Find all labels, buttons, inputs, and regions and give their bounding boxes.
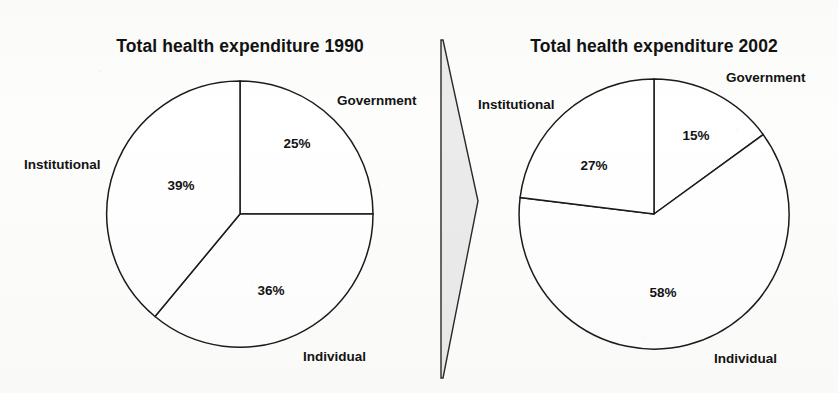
chart-title-1990: Total health expenditure 1990 — [116, 36, 364, 56]
pie-value-institutional-1990: 39% — [167, 178, 194, 193]
figure-page: Total health expenditure 1990 25% 36% 39… — [0, 0, 838, 393]
pie-value-institutional-2002: 27% — [580, 158, 607, 173]
transition-arrow-icon — [441, 40, 478, 378]
chart-title-2002: Total health expenditure 2002 — [530, 36, 778, 56]
pie-value-government-1990: 25% — [283, 136, 310, 151]
pie-value-individual-2002: 58% — [649, 285, 676, 300]
pie-label-institutional-2002: Institutional — [478, 97, 555, 112]
pie-label-institutional-1990: Institutional — [24, 157, 101, 172]
pie-label-individual-2002: Individual — [714, 351, 777, 366]
pie-chart-2002: Total health expenditure 2002 15% 58% 27… — [478, 36, 806, 366]
two-pie-chart-figure: Total health expenditure 1990 25% 36% 39… — [0, 0, 838, 393]
pie-label-individual-1990: Individual — [303, 349, 366, 364]
pie-value-individual-1990: 36% — [257, 283, 284, 298]
pie-chart-1990: Total health expenditure 1990 25% 36% 39… — [24, 36, 417, 364]
pie-value-government-2002: 15% — [682, 128, 709, 143]
pie-label-government-1990: Government — [337, 93, 417, 108]
pie-label-government-2002: Government — [726, 70, 806, 85]
